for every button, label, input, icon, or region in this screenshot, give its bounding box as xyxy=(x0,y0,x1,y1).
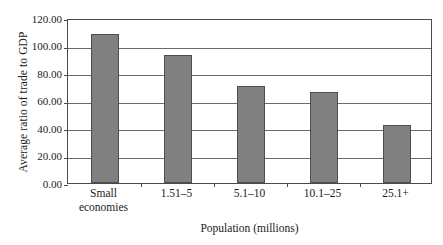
bar xyxy=(91,34,119,183)
x-tick-label: 25.1+ xyxy=(359,187,432,201)
x-tick-label: 10.1–25 xyxy=(286,187,359,201)
bar xyxy=(237,86,265,183)
plot-area xyxy=(67,19,432,184)
x-axis-tick-labels: Smalleconomies1.51–55.1–1010.1–2525.1+ xyxy=(67,187,432,227)
y-tick-label: 80.00 xyxy=(24,69,62,80)
bar xyxy=(383,125,411,183)
y-tick-label: 0.00 xyxy=(24,179,62,190)
x-tick-label: 1.51–5 xyxy=(140,187,213,201)
y-tick-label: 60.00 xyxy=(24,96,62,107)
bar xyxy=(164,55,192,183)
y-axis-tick-labels: 0.0020.0040.0060.0080.00100.00120.00 xyxy=(24,0,62,245)
x-tick-label: Smalleconomies xyxy=(67,187,140,214)
y-tick-mark xyxy=(64,185,68,186)
x-tick-label: 5.1–10 xyxy=(213,187,286,201)
bar xyxy=(310,92,338,183)
bar-chart-figure: Average ratio of trade to GDP 0.0020.004… xyxy=(0,0,443,245)
y-tick-label: 100.00 xyxy=(24,41,62,52)
x-axis-title: Population (millions) xyxy=(67,222,432,234)
bar-series xyxy=(68,20,431,183)
y-tick-label: 120.00 xyxy=(24,14,62,25)
y-tick-label: 20.00 xyxy=(24,151,62,162)
y-tick-label: 40.00 xyxy=(24,124,62,135)
